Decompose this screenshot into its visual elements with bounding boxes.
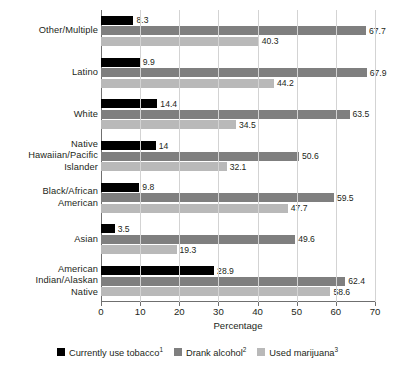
- bar-value-label: 50.6: [302, 152, 319, 161]
- category-label-line: American: [0, 264, 98, 275]
- category-label-line: American: [0, 198, 98, 209]
- x-axis-tick-label: 10: [135, 306, 146, 318]
- category-label: Other/Multiple: [0, 25, 98, 36]
- bar: [101, 58, 140, 67]
- bar: [101, 162, 227, 171]
- bar-value-label: 59.5: [337, 194, 354, 203]
- bar-value-label: 40.3: [262, 37, 279, 46]
- category-label: Black/AfricanAmerican: [0, 186, 98, 209]
- bar: [101, 277, 345, 286]
- gridline: [218, 10, 219, 302]
- bar-value-label: 63.5: [353, 110, 370, 119]
- bar-value-label: 67.7: [369, 27, 386, 36]
- category-label-line: White: [0, 109, 98, 120]
- bar-value-label: 14: [159, 142, 169, 151]
- legend-item[interactable]: Currently use tobacco1: [57, 346, 163, 358]
- plot-area: 8.367.740.39.967.944.214.463.534.51450.6…: [101, 10, 375, 302]
- legend-footnote-marker: 1: [159, 346, 163, 353]
- legend-label: Currently use tobacco1: [69, 346, 163, 358]
- grouped-bar-chart: Other/MultipleLatinoWhiteNativeHawaiian/…: [0, 0, 395, 372]
- bar: [101, 99, 157, 108]
- bar-value-label: 3.5: [118, 225, 130, 234]
- x-axis-tick-label: 0: [98, 306, 103, 318]
- bar: [101, 204, 288, 213]
- x-axis-title: Percentage: [101, 320, 375, 331]
- bar-value-label: 8.3: [136, 16, 148, 25]
- legend-item[interactable]: Drank alcohol2: [174, 346, 246, 358]
- gridline: [179, 10, 180, 302]
- category-label-line: Latino: [0, 67, 98, 78]
- x-axis-tick-label: 20: [174, 306, 185, 318]
- bar-value-label: 44.2: [277, 79, 294, 88]
- gridline: [140, 10, 141, 302]
- legend-label: Used marijuana3: [269, 346, 338, 358]
- x-axis: 010203040506070: [101, 302, 375, 318]
- bar: [101, 79, 274, 88]
- category-label: White: [0, 109, 98, 120]
- bar-value-label: 28.9: [217, 267, 234, 276]
- bar-value-label: 32.1: [230, 163, 247, 172]
- bar: [101, 183, 139, 192]
- gridline: [297, 10, 298, 302]
- legend-swatch-icon: [257, 348, 265, 356]
- bar: [101, 245, 177, 254]
- x-axis-tick-label: 60: [331, 306, 342, 318]
- bar-value-label: 9.9: [143, 58, 155, 67]
- gridline: [258, 10, 259, 302]
- category-label-line: Islander: [0, 162, 98, 173]
- bar: [101, 152, 299, 161]
- legend-swatch-icon: [174, 348, 182, 356]
- bar-value-label: 47.7: [291, 204, 308, 213]
- gridline: [336, 10, 337, 302]
- category-label-line: Native: [0, 139, 98, 150]
- category-label: Latino: [0, 67, 98, 78]
- plot-wrapper: Other/MultipleLatinoWhiteNativeHawaiian/…: [0, 10, 395, 302]
- category-label: AmericanIndian/AlaskanNative: [0, 264, 98, 298]
- x-axis-tick-label: 70: [370, 306, 381, 318]
- legend-label: Drank alcohol2: [186, 346, 246, 358]
- bar-value-label: 14.4: [160, 100, 177, 109]
- category-label-line: Asian: [0, 234, 98, 245]
- category-label: NativeHawaiian/PacificIslander: [0, 139, 98, 173]
- category-label-line: Black/African: [0, 186, 98, 197]
- category-label: Asian: [0, 234, 98, 245]
- bar-value-label: 34.5: [239, 121, 256, 130]
- category-label-line: Native: [0, 287, 98, 298]
- bar: [101, 224, 115, 233]
- legend-footnote-marker: 2: [243, 346, 247, 353]
- gridline: [375, 10, 376, 302]
- chart-legend: Currently use tobacco1Drank alcohol2Used…: [0, 346, 395, 358]
- x-axis-tick-label: 30: [213, 306, 224, 318]
- category-label-line: Indian/Alaskan: [0, 275, 98, 286]
- legend-swatch-icon: [57, 348, 65, 356]
- category-label-line: Hawaiian/Pacific: [0, 150, 98, 161]
- bar: [101, 235, 295, 244]
- bar-value-label: 62.4: [348, 277, 365, 286]
- x-axis-tick-label: 40: [252, 306, 263, 318]
- bar-value-label: 19.3: [180, 246, 197, 255]
- bar-value-label: 9.8: [142, 183, 154, 192]
- category-axis-labels: Other/MultipleLatinoWhiteNativeHawaiian/…: [0, 10, 98, 302]
- bar: [101, 266, 214, 275]
- x-axis-tick-label: 50: [291, 306, 302, 318]
- legend-item[interactable]: Used marijuana3: [257, 346, 338, 358]
- bar-value-label: 67.9: [370, 69, 387, 78]
- bar: [101, 120, 236, 129]
- bar: [101, 16, 133, 25]
- bar: [101, 141, 156, 150]
- bar: [101, 110, 350, 119]
- bar-value-label: 49.6: [298, 235, 315, 244]
- category-label-line: Other/Multiple: [0, 25, 98, 36]
- legend-footnote-marker: 3: [334, 346, 338, 353]
